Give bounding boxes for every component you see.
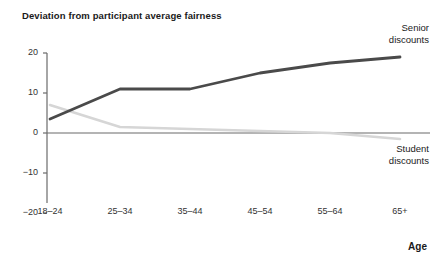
x-tick-label: 45–54 xyxy=(230,206,290,216)
x-tick-label: 18–24 xyxy=(20,206,80,216)
x-tick-label: 25–34 xyxy=(90,206,150,216)
series-label-senior-line2: discounts xyxy=(337,34,429,46)
series-label-student-line1: Student xyxy=(337,143,429,155)
x-tick-label: 65+ xyxy=(370,206,430,216)
series-label-student-line2: discounts xyxy=(337,155,429,167)
series-line-student-discounts xyxy=(50,105,400,139)
series-label-senior-discounts: Senior discounts xyxy=(337,22,429,45)
series-label-student-discounts: Student discounts xyxy=(337,143,429,166)
x-axis-title: Age xyxy=(408,241,427,252)
series-label-senior-line1: Senior xyxy=(337,22,429,34)
x-tick-label: 35–44 xyxy=(160,206,220,216)
chart-container: Deviation from participant average fairn… xyxy=(0,0,439,258)
y-tick-label: 20 xyxy=(12,47,38,57)
y-tick-label: −10 xyxy=(12,167,38,177)
x-tick-label: 55–64 xyxy=(300,206,360,216)
series-line-senior-discounts xyxy=(50,57,400,119)
y-tick-label: 0 xyxy=(12,127,38,137)
y-tick-label: 10 xyxy=(12,87,38,97)
